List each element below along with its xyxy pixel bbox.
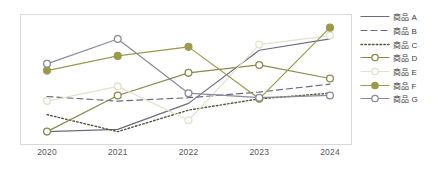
data-point-marker [44,60,51,67]
x-tick-label: 2022 [179,147,199,157]
line-chart: 20202021202220232024 商品 A商品 B商品 C商品 D商品 … [0,0,443,174]
dashed-line-icon [360,24,390,37]
legend-item-label: 商品 A [390,11,417,22]
data-point-marker [327,92,334,99]
data-point-marker [327,32,334,39]
x-tick-label: 2021 [108,147,128,157]
legend-item[interactable]: 商品 F [360,78,440,92]
data-point-marker [44,67,51,74]
legend-item[interactable]: 商品 A [360,10,440,24]
x-tick-label: 2023 [249,147,269,157]
legend-item-label: 商品 E [390,66,417,77]
legend-item[interactable]: 商品 C [360,37,440,51]
legend-item-label: 商品 C [390,39,417,50]
dotted-line-icon [360,38,390,51]
legend-item-label: 商品 D [390,52,417,63]
plot-area [20,14,352,145]
data-point-marker [185,90,192,97]
legend-item[interactable]: 商品 D [360,51,440,65]
data-point-marker [185,43,192,50]
plot-series-canvas [20,14,352,145]
series-line [47,28,330,99]
data-point-marker [185,69,192,76]
legend-item-label: 商品 G [390,93,418,104]
x-tick-label: 2024 [320,147,340,157]
legend-item[interactable]: 商品 G [360,92,440,106]
line-open-marker-icon [360,65,390,78]
data-point-marker [327,75,334,82]
x-tick-label: 2020 [37,147,57,157]
data-point-marker [256,94,263,101]
data-point-marker [114,53,121,60]
data-point-marker [44,98,51,105]
data-point-marker [44,128,51,135]
data-point-marker [185,117,192,124]
legend-item-label: 商品 F [390,80,417,91]
data-point-marker [256,62,263,69]
data-point-marker [114,92,121,99]
legend-item[interactable]: 商品 B [360,24,440,38]
legend-item-label: 商品 B [390,25,417,36]
line-open-marker-icon [360,51,390,64]
data-point-marker [114,83,121,90]
data-point-marker [114,36,121,43]
line-filled-marker-icon [360,79,390,92]
data-point-marker [256,41,263,48]
x-axis: 20202021202220232024 [20,147,352,163]
line-open-marker-icon [360,92,390,105]
solid-line-icon [360,10,390,23]
data-point-marker [327,24,334,31]
legend: 商品 A商品 B商品 C商品 D商品 E商品 F商品 G [360,10,440,106]
legend-item[interactable]: 商品 E [360,65,440,79]
